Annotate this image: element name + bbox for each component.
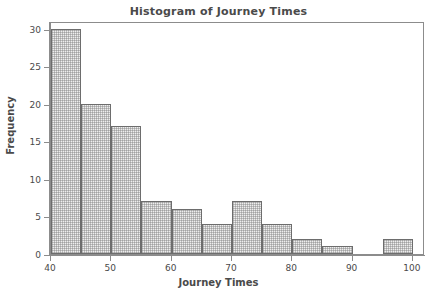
histogram-bar — [262, 224, 292, 254]
histogram-bar — [81, 104, 111, 254]
histogram-bar — [141, 201, 171, 254]
histogram-bar — [383, 239, 413, 254]
y-tick-label: 0 — [16, 251, 41, 260]
x-tick-mark — [291, 256, 292, 261]
x-tick-label: 40 — [35, 263, 65, 273]
y-tick-label: 5 — [16, 213, 41, 222]
y-tick-label: 25 — [16, 63, 41, 72]
histogram-figure: Histogram of Journey Times Frequency 051… — [0, 0, 437, 296]
x-tick-mark — [412, 256, 413, 261]
y-tick-mark — [44, 67, 49, 68]
plot-frame — [50, 22, 424, 255]
x-tick-label: 90 — [337, 263, 367, 273]
y-axis-title: Frequency — [5, 91, 16, 161]
x-axis-line — [50, 255, 425, 256]
x-tick-label: 80 — [276, 263, 306, 273]
y-tick-label: 15 — [16, 138, 41, 147]
x-tick-label: 100 — [397, 263, 427, 273]
x-tick-mark — [110, 256, 111, 261]
y-tick-mark — [44, 217, 49, 218]
y-tick-mark — [44, 30, 49, 31]
x-tick-mark — [50, 256, 51, 261]
histogram-bar — [232, 201, 262, 254]
x-tick-mark — [231, 256, 232, 261]
y-tick-mark — [44, 142, 49, 143]
y-tick-mark — [44, 180, 49, 181]
plot-area — [51, 23, 423, 254]
x-tick-label: 60 — [156, 263, 186, 273]
y-tick-label: 30 — [16, 26, 41, 35]
histogram-bar — [172, 209, 202, 254]
x-tick-mark — [171, 256, 172, 261]
chart-title: Histogram of Journey Times — [0, 5, 437, 18]
x-tick-label: 50 — [95, 263, 125, 273]
y-tick-label: 10 — [16, 176, 41, 185]
y-tick-mark — [44, 255, 49, 256]
y-tick-mark — [44, 105, 49, 106]
histogram-bar — [322, 246, 352, 254]
x-axis-title: Journey Times — [0, 277, 437, 288]
histogram-bar — [111, 126, 141, 254]
y-tick-label: 20 — [16, 101, 41, 110]
histogram-bar — [202, 224, 232, 254]
x-tick-mark — [352, 256, 353, 261]
x-tick-label: 70 — [216, 263, 246, 273]
histogram-bar — [292, 239, 322, 254]
histogram-bar — [51, 29, 81, 254]
